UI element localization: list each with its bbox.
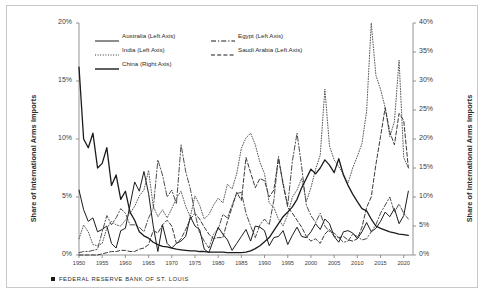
legend-label: China (Right Axis) bbox=[122, 60, 172, 67]
y-tick-label-left: 0% bbox=[46, 250, 72, 257]
y-tick-label-right: 10% bbox=[419, 192, 445, 199]
series-line-china bbox=[79, 67, 408, 253]
source-label: FEDERAL RESERVE BANK OF ST. LOUIS bbox=[59, 276, 189, 282]
y-tick-label-right: 40% bbox=[419, 18, 445, 25]
legend-label: Egypt (Left Axis) bbox=[238, 32, 283, 39]
legend-item[interactable]: India (Left Axis) bbox=[95, 45, 211, 53]
legend-row: China (Right Axis) bbox=[95, 56, 395, 70]
y-tick-label-right: 30% bbox=[419, 76, 445, 83]
y-tick-label-right: 20% bbox=[419, 134, 445, 141]
chart-figure: Share of International Arms Imports Shar… bbox=[0, 0, 485, 296]
legend-label: India (Left Axis) bbox=[122, 46, 165, 53]
x-tick-label: 1965 bbox=[136, 260, 162, 266]
x-tick-label: 2000 bbox=[298, 260, 324, 266]
legend-line-swatch bbox=[95, 45, 119, 53]
x-tick-label: 1955 bbox=[89, 260, 115, 266]
x-tick-label: 1985 bbox=[228, 260, 254, 266]
x-tick-label: 1970 bbox=[159, 260, 185, 266]
source-attribution: FEDERAL RESERVE BANK OF ST. LOUIS bbox=[51, 276, 189, 282]
legend-row: Australia (Left Axis)Egypt (Left Axis) bbox=[95, 28, 395, 42]
y-tick-label-right: 0% bbox=[419, 250, 445, 257]
legend-item[interactable]: China (Right Axis) bbox=[95, 59, 211, 67]
legend-item[interactable]: Egypt (Left Axis) bbox=[211, 31, 283, 39]
x-tick-label: 2015 bbox=[368, 260, 394, 266]
legend-item[interactable]: Saudi Arabia (Left Axis) bbox=[211, 45, 302, 53]
y-tick-label-left: 5% bbox=[46, 192, 72, 199]
y-tick-label-left: 10% bbox=[46, 134, 72, 141]
y-axis-right-title: Share of International Arms Imports bbox=[465, 89, 474, 229]
series-line-australia bbox=[79, 171, 408, 252]
legend-line-swatch bbox=[211, 45, 235, 53]
chart-legend: Australia (Left Axis)Egypt (Left Axis)In… bbox=[95, 28, 395, 70]
y-tick-label-right: 25% bbox=[419, 105, 445, 112]
legend-item[interactable]: Australia (Left Axis) bbox=[95, 31, 211, 39]
legend-line-swatch bbox=[95, 31, 119, 39]
y-tick-label-left: 20% bbox=[46, 18, 72, 25]
x-tick-label: 1975 bbox=[182, 260, 208, 266]
x-tick-label: 2020 bbox=[391, 260, 417, 266]
x-tick-label: 1995 bbox=[275, 260, 301, 266]
chart-frame: Share of International Arms Imports Shar… bbox=[6, 5, 478, 288]
x-tick-label: 2010 bbox=[344, 260, 370, 266]
y-tick-label-right: 35% bbox=[419, 47, 445, 54]
x-tick-label: 1980 bbox=[205, 260, 231, 266]
y-axis-left-title: Share of International Arms Imports bbox=[29, 89, 38, 229]
x-tick-label: 1990 bbox=[252, 260, 278, 266]
legend-line-swatch bbox=[211, 31, 235, 39]
y-tick-label-right: 15% bbox=[419, 163, 445, 170]
x-tick-label: 2005 bbox=[321, 260, 347, 266]
legend-label: Australia (Left Axis) bbox=[122, 32, 175, 39]
legend-row: India (Left Axis)Saudi Arabia (Left Axis… bbox=[95, 42, 395, 56]
x-tick-label: 1950 bbox=[66, 260, 92, 266]
legend-label: Saudi Arabia (Left Axis) bbox=[238, 46, 302, 53]
y-tick-label-right: 5% bbox=[419, 221, 445, 228]
x-tick-label: 1960 bbox=[112, 260, 138, 266]
y-tick-label-left: 15% bbox=[46, 76, 72, 83]
source-square-icon bbox=[51, 277, 55, 281]
legend-line-swatch bbox=[95, 59, 119, 67]
